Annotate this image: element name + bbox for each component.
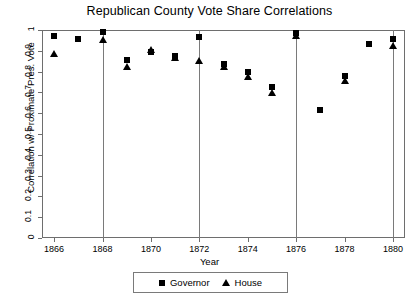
y-axis-title: Correlation w/ Proximate Pres. Vote [25, 18, 36, 218]
x-tick-label: 1878 [325, 244, 365, 254]
data-point-house-1878 [341, 77, 349, 84]
data-point-house-1866 [50, 50, 58, 57]
chart-title: Republican County Vote Share Correlation… [0, 4, 419, 18]
legend-label-house: House [235, 277, 262, 288]
data-point-house-1876 [292, 32, 300, 39]
triangle-marker-icon [222, 279, 230, 286]
y-tick [38, 217, 42, 218]
x-tick-label: 1870 [131, 244, 171, 254]
x-tick-label: 1880 [373, 244, 413, 254]
data-point-house-1874 [244, 73, 252, 80]
legend: Governor House [133, 272, 288, 293]
data-point-house-1869 [123, 63, 131, 70]
data-point-governor-1879 [366, 41, 372, 47]
data-point-house-1872 [195, 57, 203, 64]
reference-line-1876 [296, 30, 297, 238]
x-tick [248, 238, 249, 242]
y-tick [38, 30, 42, 31]
x-tick [393, 238, 394, 242]
data-point-house-1880 [389, 42, 397, 49]
data-point-house-1868 [99, 36, 107, 43]
y-tick [38, 113, 42, 114]
data-point-governor-1866 [51, 33, 57, 39]
y-tick-label: 0 [0, 233, 34, 241]
x-axis-title: Year [0, 256, 419, 267]
data-point-governor-1868 [100, 29, 106, 35]
data-point-governor-1877 [317, 107, 323, 113]
y-tick [38, 72, 42, 73]
y-tick [38, 155, 42, 156]
y-tick [38, 92, 42, 93]
x-tick-label: 1872 [179, 244, 219, 254]
data-point-governor-1872 [196, 34, 202, 40]
y-tick [38, 51, 42, 52]
square-marker-icon [159, 280, 165, 286]
y-tick [38, 196, 42, 197]
x-tick-label: 1866 [34, 244, 74, 254]
legend-item-house: House [222, 277, 262, 288]
x-tick [296, 238, 297, 242]
x-tick [199, 238, 200, 242]
legend-item-governor: Governor [159, 277, 210, 288]
x-tick [151, 238, 152, 242]
x-tick-label: 1876 [276, 244, 316, 254]
chart-root: Republican County Vote Share Correlation… [0, 0, 419, 305]
x-tick [54, 238, 55, 242]
data-point-house-1871 [171, 54, 179, 61]
reference-line-1880 [393, 30, 394, 238]
data-point-house-1875 [268, 89, 276, 96]
reference-line-1868 [103, 30, 104, 238]
data-point-house-1870 [147, 46, 155, 53]
y-tick [38, 176, 42, 177]
data-point-governor-1867 [75, 36, 81, 42]
data-point-house-1873 [220, 63, 228, 70]
x-tick [103, 238, 104, 242]
y-tick [38, 134, 42, 135]
legend-label-governor: Governor [170, 277, 210, 288]
x-tick [345, 238, 346, 242]
y-tick [38, 238, 42, 239]
x-tick-label: 1874 [228, 244, 268, 254]
x-tick-label: 1868 [83, 244, 123, 254]
